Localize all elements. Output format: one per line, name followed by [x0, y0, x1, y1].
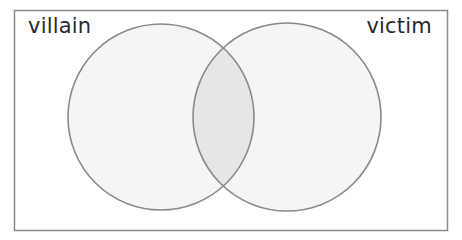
victim-label: victim	[366, 14, 432, 38]
villain-label: villain	[28, 14, 91, 38]
